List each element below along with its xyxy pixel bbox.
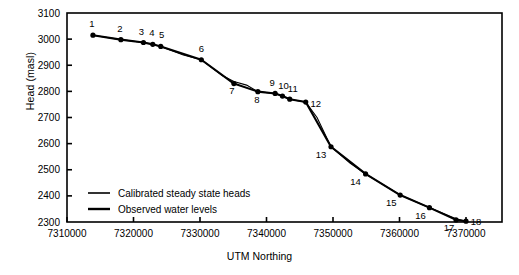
y-tick-label: 2900 [38, 60, 61, 71]
chart-legend: Calibrated steady state headsObserved wa… [88, 188, 250, 215]
y-tick-label: 2500 [38, 164, 61, 175]
x-tick-label: 7310000 [48, 228, 87, 239]
y-tick-label: 3100 [38, 8, 61, 19]
data-point-marker [398, 192, 403, 197]
y-tick-label: 2800 [38, 86, 61, 97]
data-point-marker [463, 219, 468, 224]
chart-tick-labels: 2300240025002600270028002900300031007310… [38, 8, 486, 240]
data-point-label: 1 [89, 18, 94, 29]
data-point-marker [199, 57, 204, 62]
y-tick-label: 2700 [38, 112, 61, 123]
x-tick-label: 7340000 [247, 228, 286, 239]
data-point-label: 6 [199, 43, 204, 54]
chart-plot: 2300240025002600270028002900300031007310… [0, 0, 519, 275]
y-tick-label: 2300 [38, 217, 61, 228]
data-point-marker [158, 44, 163, 49]
y-tick-label: 2600 [38, 138, 61, 149]
data-point-marker [150, 42, 155, 47]
data-point-label: 5 [159, 29, 164, 40]
data-point-label: 12 [310, 98, 321, 109]
data-point-label: 18 [471, 216, 482, 227]
data-point-label: 13 [316, 149, 327, 160]
data-point-marker [90, 33, 95, 38]
x-axis-label: UTM Northing [0, 250, 519, 262]
data-point-label: 15 [386, 197, 397, 208]
data-point-labels: 123456789101112131415161718 [89, 18, 481, 233]
y-tick-label: 2400 [38, 190, 61, 201]
y-axis-label: Head (masl) [24, 21, 36, 141]
data-point-marker [287, 97, 292, 102]
data-point-label: 8 [254, 94, 259, 105]
data-point-label: 14 [350, 176, 361, 187]
data-point-label: 16 [415, 210, 426, 221]
y-tick-label: 3000 [38, 34, 61, 45]
x-tick-label: 7350000 [314, 228, 353, 239]
data-point-marker [118, 37, 123, 42]
data-point-label: 17 [444, 222, 455, 233]
data-point-marker [427, 205, 432, 210]
data-point-label: 9 [269, 77, 274, 88]
legend-label: Calibrated steady state heads [118, 188, 250, 199]
data-point-label: 7 [229, 85, 234, 96]
data-point-marker [363, 171, 368, 176]
data-point-marker [303, 99, 308, 104]
data-point-label: 4 [149, 27, 154, 38]
x-tick-label: 7320000 [114, 228, 153, 239]
data-point-label: 2 [117, 23, 122, 34]
x-tick-label: 7360000 [380, 228, 419, 239]
data-point-label: 11 [288, 83, 298, 94]
data-point-marker [328, 144, 333, 149]
x-tick-label: 7330000 [181, 228, 220, 239]
chart-container: 2300240025002600270028002900300031007310… [0, 0, 519, 275]
data-point-marker [141, 40, 146, 45]
data-point-marker [280, 93, 285, 98]
data-point-label: 3 [139, 26, 144, 37]
data-point-marker [273, 91, 278, 96]
legend-label: Observed water levels [118, 204, 217, 215]
